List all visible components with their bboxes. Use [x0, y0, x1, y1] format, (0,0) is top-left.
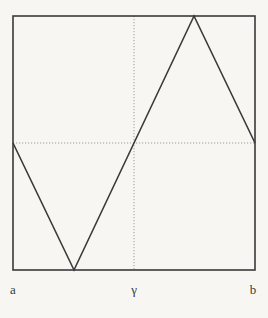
axis-label-a: a: [10, 282, 16, 297]
axis-label-b: b: [250, 282, 257, 297]
axis-label-gamma: γ: [130, 282, 137, 297]
math-figure: a γ b: [0, 0, 268, 318]
figure-canvas: a γ b: [0, 0, 268, 318]
